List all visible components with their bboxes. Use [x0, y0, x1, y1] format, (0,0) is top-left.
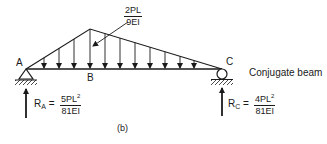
peak-load-value: 2PL 9EI [124, 6, 142, 27]
conjugate-beam-title: Conjugate beam [249, 68, 322, 78]
roller-support-c-icon [211, 69, 233, 85]
pin-support-a-icon [15, 69, 37, 85]
figure-caption: (b) [117, 124, 128, 133]
load-diagram-outline [26, 29, 222, 69]
reaction-a-value: 5PL2 81EI [60, 93, 81, 116]
distributed-load-arrows [44, 29, 194, 68]
reaction-a-symbol: RA = [34, 99, 55, 110]
reaction-c-symbol: RC = [228, 99, 249, 110]
conjugate-beam-diagram: A B C Conjugate beam 2PL 9EI RA = 5PL2 8… [0, 0, 327, 144]
reaction-c-value: 4PL2 81EI [254, 93, 275, 116]
point-c-label: C [226, 57, 233, 67]
point-a-label: A [16, 58, 23, 68]
peak-leader-line [93, 22, 128, 46]
point-b-label: B [87, 73, 94, 83]
